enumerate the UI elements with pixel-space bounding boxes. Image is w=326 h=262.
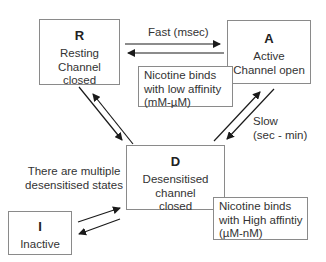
state-i-letter: I	[9, 219, 71, 234]
slow-label-line1: Slow	[253, 115, 307, 129]
state-r-line3: closed	[40, 74, 119, 88]
state-d-box: D Desensitised channel closed	[126, 145, 225, 210]
state-i-box: I Inactive	[8, 211, 72, 255]
state-d-line1: Desensitised	[127, 173, 224, 187]
fast-label: Fast (msec)	[148, 26, 209, 40]
state-d-line2: channel	[127, 187, 224, 201]
state-r-line2: Channel	[40, 61, 119, 75]
low-affinity-note: Nicotine binds with low affinity (mM-µM)	[138, 66, 233, 107]
slow-label: Slow (sec - min)	[253, 115, 307, 142]
arrow-d-to-r	[93, 94, 133, 144]
multiple-states-line2: desensitised states	[20, 179, 128, 193]
slow-label-line2: (sec - min)	[253, 129, 307, 143]
high-affinity-note: Nicotine binds with High affintiy (µM-nM…	[213, 197, 308, 240]
low-affinity-line3: (mM-µM)	[144, 96, 232, 110]
state-i-line1: Inactive	[9, 238, 71, 252]
state-r-letter: R	[40, 28, 119, 43]
arrow-d-to-i	[79, 219, 120, 234]
low-affinity-line1: Nicotine binds	[144, 69, 232, 83]
state-a-box: A Active Channel open	[227, 20, 311, 84]
state-d-letter: D	[127, 154, 224, 169]
state-d-line3: closed	[127, 200, 224, 214]
arrow-i-to-d	[78, 208, 120, 222]
state-r-box: R Resting Channel closed	[39, 19, 120, 85]
high-affinity-line3: (µM-nM)	[219, 227, 307, 241]
state-r-line1: Resting	[40, 47, 119, 61]
state-a-line2: Channel open	[228, 64, 310, 78]
state-a-line1: Active	[228, 50, 310, 64]
high-affinity-line2: with High affintiy	[219, 214, 307, 228]
arrow-r-to-d	[79, 87, 122, 140]
multiple-states-label: There are multiple desensitised states	[20, 165, 128, 192]
multiple-states-line1: There are multiple	[20, 165, 128, 179]
low-affinity-line2: with low affinity	[144, 83, 232, 97]
state-a-letter: A	[228, 31, 310, 46]
high-affinity-line1: Nicotine binds	[219, 200, 307, 214]
